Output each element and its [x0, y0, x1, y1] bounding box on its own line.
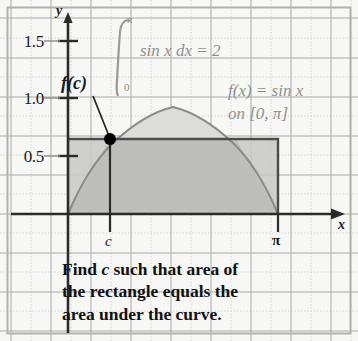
x-axis-arrowhead — [331, 209, 345, 220]
point-c-fc — [104, 133, 116, 145]
y-tick-leader-lines — [44, 41, 60, 156]
figure-container: y x 1.5 1.0 0.5 c π f(c) π 0 sin x dx = … — [0, 0, 358, 341]
y-axis-arrowhead — [63, 12, 72, 23]
fc-leader-line — [93, 96, 109, 136]
plot-layer — [0, 0, 358, 341]
integral-sign-stroke — [117, 20, 130, 96]
